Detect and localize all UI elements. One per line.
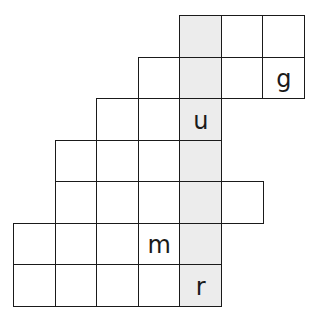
- grid-cell[interactable]: [138, 140, 181, 183]
- grid-cell[interactable]: [179, 140, 222, 183]
- grid-cell[interactable]: [96, 223, 139, 266]
- grid-cell[interactable]: [138, 264, 181, 307]
- grid-cell[interactable]: [221, 15, 264, 58]
- grid-cell-letter-r[interactable]: r: [179, 264, 222, 307]
- grid-cell[interactable]: [96, 264, 139, 307]
- grid-cell[interactable]: [96, 98, 139, 141]
- grid-cell[interactable]: [55, 181, 98, 224]
- grid-cell[interactable]: [179, 57, 222, 100]
- grid-cell[interactable]: [55, 223, 98, 266]
- grid-cell[interactable]: [96, 181, 139, 224]
- crossword-grid: gumr: [0, 0, 327, 311]
- grid-cell[interactable]: [179, 223, 222, 266]
- grid-cell[interactable]: [138, 98, 181, 141]
- grid-cell[interactable]: [179, 181, 222, 224]
- grid-cell-letter-u[interactable]: u: [179, 98, 222, 141]
- grid-cell[interactable]: [221, 57, 264, 100]
- grid-cell[interactable]: [221, 181, 264, 224]
- grid-cell[interactable]: [55, 264, 98, 307]
- grid-cell-letter-m[interactable]: m: [138, 223, 181, 266]
- grid-cell[interactable]: [179, 15, 222, 58]
- grid-cell-letter-g[interactable]: g: [262, 57, 305, 100]
- grid-cell[interactable]: [55, 140, 98, 183]
- grid-cell[interactable]: [262, 15, 305, 58]
- grid-cell[interactable]: [138, 57, 181, 100]
- grid-cell[interactable]: [138, 181, 181, 224]
- grid-cell[interactable]: [13, 223, 56, 266]
- grid-cell[interactable]: [96, 140, 139, 183]
- grid-cell[interactable]: [13, 264, 56, 307]
